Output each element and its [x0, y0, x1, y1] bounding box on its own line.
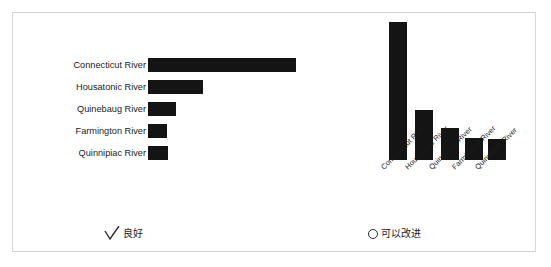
bar-label: Quinebaug River	[77, 102, 146, 116]
bar-quinnipiac-river	[148, 146, 168, 160]
status-label-good: 良好	[123, 228, 143, 240]
status-legend-good: 良好	[104, 226, 143, 241]
vertical-chart-axis-labels: Connecticut River Housatonic River Quine…	[380, 163, 530, 218]
table-row: Quinebaug River	[40, 102, 310, 116]
bar-label: Farmington River	[76, 124, 146, 138]
table-row: Quinnipiac River	[40, 146, 310, 160]
bar-housatonic-river	[148, 80, 203, 94]
status-legend-improve: 可以改进	[368, 228, 421, 240]
bar-label: Connecticut River	[73, 58, 146, 72]
screenshot-canvas: Connecticut River Housatonic River Quine…	[0, 0, 551, 267]
bar-quinebaug-river	[148, 102, 176, 116]
check-icon	[104, 226, 120, 241]
status-label-improve: 可以改进	[381, 228, 421, 240]
bar-label: Housatonic River	[76, 80, 146, 94]
bar-label: Quinnipiac River	[79, 146, 146, 160]
circle-icon	[368, 229, 378, 239]
table-row: Farmington River	[40, 124, 310, 138]
bar-farmington-river	[148, 124, 167, 138]
table-row: Housatonic River	[40, 80, 310, 94]
bar-connecticut-river	[148, 58, 296, 72]
horizontal-bar-chart: Connecticut River Housatonic River Quine…	[40, 58, 310, 163]
table-row: Connecticut River	[40, 58, 310, 72]
